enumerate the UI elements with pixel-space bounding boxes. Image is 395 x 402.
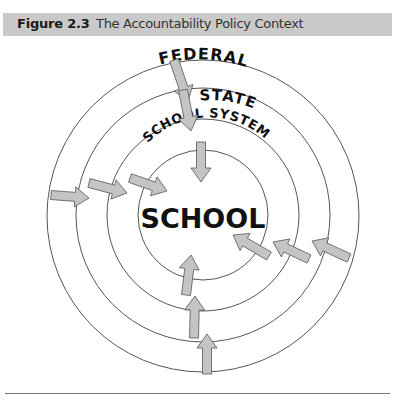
arrow-right-icon [312, 238, 351, 262]
policy-context-diagram: FEDERAL STATE SCHOOL SYSTEM SCHOOL [0, 0, 395, 402]
arrow-bottom-icon [179, 255, 199, 296]
arrow-left-icon [88, 179, 127, 200]
arrow-bottom-icon [197, 334, 217, 374]
arrow-right-icon [233, 233, 271, 260]
label-school: SCHOOL [141, 203, 266, 234]
label-federal: FEDERAL [157, 44, 252, 71]
arrow-top-icon [191, 142, 211, 182]
arrow-left-icon [129, 174, 168, 196]
bottom-rule [5, 393, 390, 394]
arrow-bottom-icon [185, 296, 205, 338]
arrow-left-icon [51, 187, 89, 207]
arrow-right-icon [273, 239, 311, 263]
